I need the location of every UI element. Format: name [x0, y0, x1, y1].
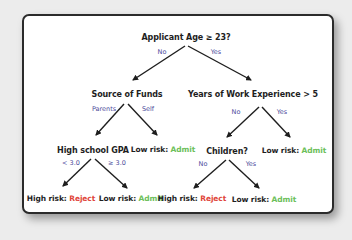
children-node: Children?: [206, 148, 248, 156]
leaf-children-no-reject: High risk: Reject: [158, 195, 226, 203]
leaf-work-yes-admit: Low risk: Admit: [262, 147, 326, 155]
leaf-risk-label: Low risk:: [232, 195, 272, 204]
leaf-decision-reject: Reject: [69, 194, 95, 203]
edge-label-root-yes: Yes: [211, 49, 222, 56]
edge-label-self: Self: [142, 106, 154, 113]
root-question: Applicant Age ≥ 23?: [141, 34, 230, 42]
edge-label-work-yes: Yes: [277, 109, 288, 116]
leaf-risk-label: High risk:: [158, 194, 200, 203]
leaf-children-yes-admit: Low risk: Admit: [232, 196, 296, 204]
edge-label-gpa-high: ≥ 3.0: [108, 160, 126, 167]
leaf-decision-admit: Admit: [272, 195, 297, 204]
leaf-self-admit: Low risk: Admit: [131, 146, 195, 154]
leaf-risk-label: High risk:: [27, 194, 69, 203]
leaf-decision-admit: Admit: [171, 145, 196, 154]
leaf-risk-label: Low risk:: [99, 194, 139, 203]
source-of-funds-node: Source of Funds: [91, 91, 162, 99]
leaf-decision-admit: Admit: [302, 146, 327, 155]
leaf-gpa-low-reject: High risk: Reject: [27, 195, 95, 203]
edge-label-gpa-low: < 3.0: [62, 160, 80, 167]
leaf-gpa-high-admit: Low risk: Admit: [99, 195, 163, 203]
edge-label-children-no: No: [199, 161, 208, 168]
leaf-risk-label: Low risk:: [131, 145, 171, 154]
edge-label-children-yes: Yes: [246, 161, 257, 168]
work-experience-node: Years of Work Experience > 5: [188, 91, 318, 99]
leaf-risk-label: Low risk:: [262, 146, 302, 155]
leaf-decision-reject: Reject: [200, 194, 226, 203]
gpa-node: High school GPA: [57, 147, 129, 155]
edge-label-root-no: No: [158, 49, 167, 56]
edge-label-parents: Parents: [92, 106, 116, 113]
edge-label-work-no: No: [232, 109, 241, 116]
